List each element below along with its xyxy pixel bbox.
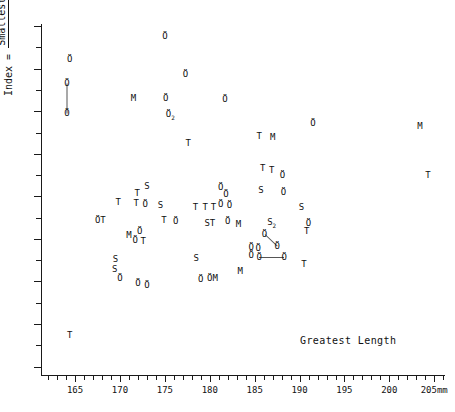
x-tick-label: 195 [324,385,364,395]
data-point-marker: Ö [135,279,140,288]
data-point-marker: T [193,202,198,211]
y-tick-major [34,196,41,197]
data-point-marker: Ö [162,32,167,41]
data-point-marker: T [185,138,190,147]
data-point-marker: M [417,121,422,130]
data-point-marker: Ö [222,94,227,103]
y-tick-major [34,281,41,282]
data-point-marker: Ö [183,69,188,78]
y-tick-major [34,239,41,240]
data-point-marker: Ö [262,229,267,238]
y-axis-title-denominator: Greatest Length [9,0,20,48]
y-tick-major [34,26,41,27]
data-point-marker: Ö [218,200,223,209]
y-axis-title-prefix: Index = [3,48,14,96]
x-tick-minor [264,375,265,380]
y-tick-minor [36,175,41,176]
x-tick-minor [246,375,247,380]
x-tick-minor [66,375,67,380]
x-tick-minor [192,375,193,380]
data-point-marker: Ö [173,217,178,226]
y-tick-minor [36,303,41,304]
data-point-marker: Ö [310,119,315,128]
x-tick-minor [237,375,238,380]
x-tick-label: 180 [190,385,230,395]
x-tick-minor [174,375,175,380]
data-point-marker: ÖM [207,274,218,283]
x-tick-minor [147,375,148,380]
y-tick-major [34,324,41,325]
y-tick-minor [36,345,41,346]
y-tick-major [34,69,41,70]
data-point-marker: Ö [280,171,285,180]
data-point-marker: Ö [282,252,287,261]
data-point-marker: T [304,227,309,236]
x-tick-minor [416,375,417,380]
data-point-marker: M [236,219,241,228]
x-tick-minor [425,375,426,380]
x-tick-minor [111,375,112,380]
data-point-marker: S [144,182,149,191]
y-axis-title: Index = Smallest Breadth of diaphysis x … [0,0,19,96]
x-tick-major [344,375,345,382]
x-tick-minor [102,375,103,380]
data-point-marker: Ö [248,251,253,260]
x-tick-minor [309,375,310,380]
x-tick-major [120,375,121,382]
data-point-marker: T [115,198,120,207]
x-tick-label: 185 [235,385,275,395]
x-tick-minor [183,375,184,380]
point-connector-line [259,257,284,258]
y-tick-major [34,154,41,155]
data-point-marker: Ö [225,217,230,226]
x-tick-minor [84,375,85,380]
data-point-marker: Ö [64,108,69,117]
x-tick-major [255,375,256,382]
x-tick-minor [57,375,58,380]
x-tick-minor [219,375,220,380]
x-tick-minor [327,375,328,380]
x-tick-minor [336,375,337,380]
data-point-marker: T [260,164,265,173]
x-tick-major [300,375,301,382]
data-point-marker: T [256,131,261,140]
data-point-marker: Ö [281,188,286,197]
y-axis-line [41,24,42,375]
y-tick-minor [36,260,41,261]
x-tick-minor [129,375,130,380]
x-tick-label: 205mm [414,385,454,395]
data-point-marker: Ö [227,200,232,209]
data-point-marker: M [126,230,131,239]
x-tick-minor [362,375,363,380]
x-tick-minor [318,375,319,380]
data-point-marker: T [211,203,216,212]
x-tick-major [389,375,390,382]
y-tick-minor [36,90,41,91]
data-point-marker: S [299,203,304,212]
x-tick-minor [48,375,49,380]
data-point-marker: T [134,188,139,197]
data-point-marker: T [425,171,430,180]
data-point-marker: Ö [274,241,279,250]
data-point-marker: T [269,165,274,174]
x-tick-label: 175 [145,385,185,395]
data-point-marker: ST [204,218,215,227]
x-tick-label: 190 [280,385,320,395]
data-point-marker: S2 [267,218,276,230]
x-tick-minor [371,375,372,380]
data-point-marker: T [67,331,72,340]
data-point-marker: T [133,199,138,208]
data-point-marker: M [270,132,275,141]
x-tick-minor [93,375,94,380]
x-tick-major [434,375,435,382]
data-point-marker: Ö [256,252,261,261]
data-point-marker: T [141,237,146,246]
x-tick-major [75,375,76,382]
data-point-marker: S [258,185,263,194]
x-tick-minor [282,375,283,380]
x-tick-minor [138,375,139,380]
x-tick-major [210,375,211,382]
y-axis-title-numerator: Smallest Breadth of diaphysis x 100 [0,0,9,48]
x-tick-minor [407,375,408,380]
data-point-marker: T [161,216,166,225]
